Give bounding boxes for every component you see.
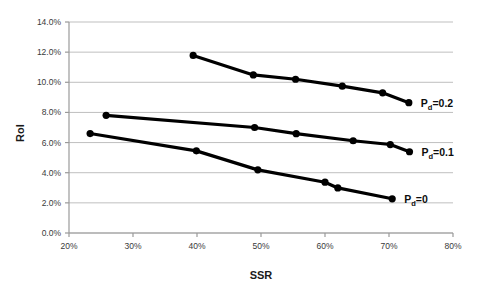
data-point-marker: [250, 71, 257, 78]
data-point-marker: [406, 148, 413, 155]
y-tick-label: 6.0%: [42, 138, 62, 148]
y-tick-label: 8.0%: [42, 107, 62, 117]
data-point-marker: [254, 166, 261, 173]
y-tick-label: 14.0%: [37, 17, 62, 27]
data-point-marker: [379, 89, 386, 96]
data-point-marker: [293, 130, 300, 137]
data-point-marker: [350, 137, 357, 144]
data-point-marker: [193, 147, 200, 154]
chart-container: 20%30%40%50%60%70%80% 0.0%2.0%4.0%6.0%8.…: [0, 0, 482, 288]
y-tick-label: 0.0%: [42, 228, 62, 238]
x-tick-label: 70%: [380, 241, 397, 251]
x-tick-label: 60%: [316, 241, 333, 251]
x-tick-label: 80%: [444, 241, 461, 251]
data-point-marker: [103, 112, 110, 119]
roi-vs-ssr-line-chart: 20%30%40%50%60%70%80% 0.0%2.0%4.0%6.0%8.…: [0, 0, 482, 288]
data-point-marker: [251, 124, 258, 131]
data-point-marker: [387, 141, 394, 148]
data-point-marker: [190, 52, 197, 59]
y-tick-label: 10.0%: [37, 77, 62, 87]
data-point-marker: [334, 184, 341, 191]
x-tick-label: 30%: [124, 241, 141, 251]
data-point-marker: [292, 76, 299, 83]
data-point-marker: [389, 195, 396, 202]
y-tick-label: 2.0%: [42, 198, 62, 208]
data-point-marker: [405, 99, 412, 106]
x-axis-title: SSR: [250, 269, 273, 281]
x-tick-label: 50%: [252, 241, 269, 251]
x-tick-label: 20%: [60, 241, 77, 251]
y-tick-label: 4.0%: [42, 168, 62, 178]
data-point-marker: [87, 130, 94, 137]
x-tick-label: 40%: [188, 241, 205, 251]
data-point-marker: [321, 179, 328, 186]
y-tick-label: 12.0%: [37, 47, 62, 57]
y-axis-title: RoI: [14, 124, 26, 142]
data-point-marker: [339, 83, 346, 90]
